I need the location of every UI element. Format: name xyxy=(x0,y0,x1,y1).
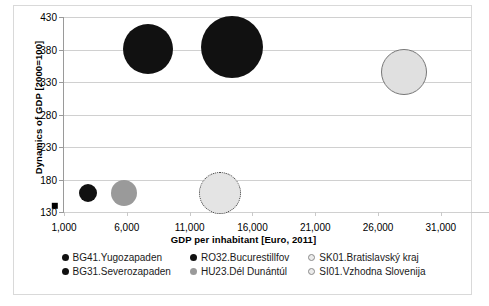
y-tick-mark xyxy=(59,147,64,148)
legend-marker-icon xyxy=(62,254,69,261)
legend-item[interactable]: BG41.Yugozapaden xyxy=(62,252,171,263)
x-tick-mark xyxy=(315,212,316,216)
y-tick-label: 180 xyxy=(40,174,57,185)
x-tick-label: 11,000 xyxy=(175,222,205,233)
bubble-si01 xyxy=(199,172,241,214)
x-tick-mark xyxy=(378,212,379,216)
bubble-sk01 xyxy=(381,49,427,95)
x-tick-mark xyxy=(64,212,65,216)
y-tick-mark xyxy=(59,17,64,18)
bubble-bg41 xyxy=(51,202,57,208)
x-tick-label: 6,000 xyxy=(114,222,139,233)
x-tick-mark xyxy=(252,212,253,216)
gridline xyxy=(64,147,471,148)
x-tick-label: 31,000 xyxy=(426,222,457,233)
legend-marker-icon xyxy=(190,268,197,275)
legend-label: BG41.Yugozapaden xyxy=(73,252,163,263)
legend-label: BG31.Severozapaden xyxy=(73,266,171,277)
x-tick-mark xyxy=(441,212,442,216)
y-tick-label: 430 xyxy=(40,12,57,23)
legend-marker-icon xyxy=(308,268,315,275)
y-tick-label: 330 xyxy=(40,77,57,88)
legend-marker-icon xyxy=(62,268,69,275)
legend-item[interactable]: RO32.Bucurestillfov xyxy=(190,252,289,263)
x-tick-label: 1,000 xyxy=(51,222,76,233)
y-tick-label: 230 xyxy=(40,142,57,153)
y-tick-mark xyxy=(59,180,64,181)
legend-label: HU23.Dél Dunántúl xyxy=(201,266,287,277)
legend-label: SK01.Bratislavský kraj xyxy=(319,252,418,263)
y-tick-mark xyxy=(59,82,64,83)
bubble-hu23 xyxy=(111,180,137,206)
chart-legend: BG41.YugozapadenRO32.BucurestillfovSK01.… xyxy=(14,252,473,277)
x-tick-mark xyxy=(190,212,191,216)
x-axis-title: GDP per inhabitant [Euro, 2011] xyxy=(14,234,473,245)
y-tick-label: 380 xyxy=(40,44,57,55)
y-tick-mark xyxy=(59,115,64,116)
y-tick-label: 280 xyxy=(40,109,57,120)
y-tick-mark xyxy=(59,50,64,51)
legend-label: RO32.Bucurestillfov xyxy=(201,252,289,263)
bubble-ro32 xyxy=(201,16,263,78)
x-tick-label: 16,000 xyxy=(237,222,268,233)
bubble-ro32 xyxy=(123,24,173,74)
legend-item[interactable]: SK01.Bratislavský kraj xyxy=(308,252,425,263)
legend-label: SI01.Vzhodna Slovenija xyxy=(319,266,425,277)
chart-figure: Dynamics of GDP [2000=100] 1301802302803… xyxy=(13,5,472,295)
bubble-bg31 xyxy=(79,184,97,202)
x-tick-label: 26,000 xyxy=(363,222,394,233)
legend-item[interactable]: BG31.Severozapaden xyxy=(62,266,171,277)
legend-item[interactable]: SI01.Vzhodna Slovenija xyxy=(308,266,425,277)
plot-area: 130180230280330380430 1,0006,00011,00016… xyxy=(64,17,471,212)
gridline xyxy=(64,17,471,18)
legend-marker-icon xyxy=(308,254,315,261)
gridline xyxy=(64,212,471,213)
x-tick-label: 21,000 xyxy=(300,222,331,233)
gridline xyxy=(64,115,471,116)
legend-item[interactable]: HU23.Dél Dunántúl xyxy=(190,266,289,277)
x-tick-mark xyxy=(127,212,128,216)
legend-marker-icon xyxy=(190,254,197,261)
